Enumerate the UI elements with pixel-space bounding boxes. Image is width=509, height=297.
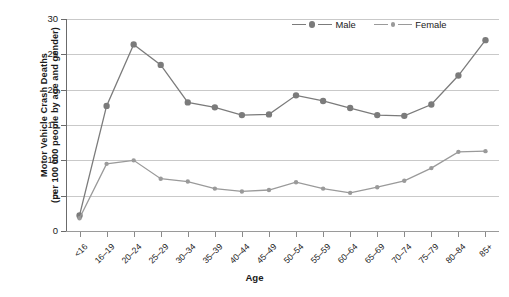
data-point-female[interactable] [186,179,190,183]
legend-label-female: Female [415,19,446,30]
data-series-layer [0,0,509,297]
series-line-female [80,151,486,218]
data-point-male[interactable] [374,112,380,118]
data-point-female[interactable] [77,216,81,220]
y-axis-tick-mark [61,90,66,91]
data-point-male[interactable] [185,99,191,105]
legend-item-female[interactable]: Female [374,19,447,30]
data-point-female[interactable] [375,185,379,189]
y-axis-tick-mark [61,196,66,197]
data-point-male[interactable] [401,113,407,119]
chart-legend: Male Female [292,19,447,30]
data-point-female[interactable] [348,191,352,195]
data-point-male[interactable] [130,41,136,47]
x-axis-title: Age [0,272,509,283]
chart-container: Motor Vehicle Crash Deaths (per 100 000 … [0,0,509,297]
data-point-male[interactable] [293,92,299,98]
y-axis-tick-mark [61,19,66,20]
data-point-male[interactable] [455,72,461,78]
data-point-male[interactable] [158,62,164,68]
data-point-female[interactable] [267,188,271,192]
data-point-female[interactable] [294,180,298,184]
legend-item-male[interactable]: Male [292,19,356,30]
data-point-female[interactable] [240,189,244,193]
legend-line-male [292,24,306,26]
data-point-female[interactable] [321,186,325,190]
data-point-male[interactable] [239,112,245,118]
legend-line-female [374,24,388,26]
data-point-female[interactable] [429,166,433,170]
data-point-male[interactable] [212,104,218,110]
legend-line-female-2 [398,24,412,26]
data-point-female[interactable] [483,149,487,153]
data-point-male[interactable] [347,105,353,111]
y-axis-tick-mark [61,160,66,161]
y-axis-tick-mark [61,231,66,232]
data-point-female[interactable] [131,158,135,162]
data-point-male[interactable] [482,37,488,43]
y-axis-tick-mark [61,54,66,55]
legend-label-male: Male [335,19,355,30]
legend-line-male-2 [318,24,332,26]
data-point-female[interactable] [104,162,108,166]
data-point-female[interactable] [402,179,406,183]
series-line-male [80,40,486,215]
legend-marker-female [391,22,395,26]
data-point-male[interactable] [266,111,272,117]
data-point-male[interactable] [320,98,326,104]
legend-marker-male [309,21,315,27]
data-point-female[interactable] [159,176,163,180]
y-axis-tick-mark [61,125,66,126]
data-point-male[interactable] [428,101,434,107]
data-point-female[interactable] [213,186,217,190]
data-point-female[interactable] [456,150,460,154]
data-point-male[interactable] [103,103,109,109]
